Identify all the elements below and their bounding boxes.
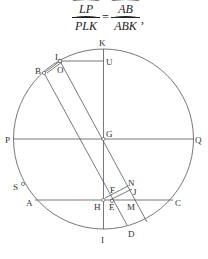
label-H: H: [94, 202, 101, 212]
label-P: P: [5, 135, 10, 145]
label-M: M: [127, 202, 135, 212]
point-S: [21, 182, 24, 185]
label-Q: Q: [195, 135, 202, 145]
label-L: L: [55, 52, 61, 62]
label-B: B: [35, 66, 41, 76]
label-A: A: [26, 198, 33, 208]
label-J: J: [133, 187, 137, 197]
label-K: K: [99, 38, 106, 48]
label-D: D: [128, 229, 135, 239]
geometry-diagram: K L U B O G P Q S N F J A H E M C I D: [0, 0, 208, 259]
point-G: [102, 137, 105, 140]
label-F: F: [110, 185, 115, 195]
label-U: U: [106, 57, 113, 67]
line-FN: [105, 186, 128, 198]
label-G: G: [106, 129, 113, 139]
point-H: [102, 198, 105, 201]
label-E: E: [109, 202, 115, 212]
label-O: O: [57, 65, 64, 75]
point-B: [42, 71, 45, 74]
line-BD: [44, 73, 127, 225]
label-I: I: [101, 235, 104, 245]
label-S: S: [13, 182, 18, 192]
label-C: C: [175, 198, 181, 208]
